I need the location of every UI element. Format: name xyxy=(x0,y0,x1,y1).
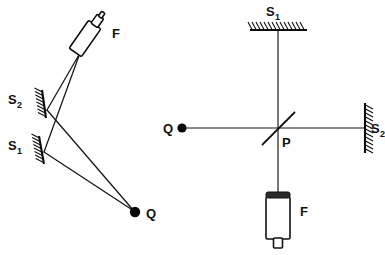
mirror-s1-face xyxy=(39,136,44,164)
right-beamsplitter-p-label: P xyxy=(282,135,291,150)
right-source-q-label: Q xyxy=(163,121,173,136)
left-mirror-s2-label: S xyxy=(8,92,17,107)
right-mirror-s2: S 2 xyxy=(365,103,385,153)
left-telescope-f xyxy=(69,8,109,57)
right-beam-paths xyxy=(184,30,365,192)
right-mirror-s1-label: S xyxy=(266,4,275,19)
left-mirror-s2-subscript: 2 xyxy=(17,100,22,110)
source-q-dot xyxy=(130,207,140,217)
left-mirror-s1: S 1 xyxy=(8,134,44,164)
left-source-q-label: Q xyxy=(146,206,156,221)
telescope-tip xyxy=(98,11,105,18)
right-mirror-s1-hatching xyxy=(248,22,304,30)
right-detector-f: F xyxy=(266,192,308,248)
detector-body xyxy=(266,197,290,239)
right-source-q: Q xyxy=(163,121,187,136)
interferometer-diagram-canvas: S 2 S 1 xyxy=(0,0,385,255)
right-mirror-s1: S 1 xyxy=(248,4,307,30)
left-mirror-s1-label: S xyxy=(8,138,17,153)
ray-s2-to-f xyxy=(47,53,80,110)
figure-root: S 2 S 1 xyxy=(0,0,385,255)
left-mirror-s1-subscript: 1 xyxy=(17,146,22,156)
right-detector-f-label: F xyxy=(300,204,308,219)
right-diagram-group: S 1 xyxy=(163,4,385,248)
right-mirror-s2-label: S xyxy=(371,121,380,136)
detector-stem xyxy=(274,238,283,248)
right-mirror-s2-subscript: 2 xyxy=(380,129,385,139)
left-ray-paths xyxy=(44,53,134,211)
left-diagram-group: S 2 S 1 xyxy=(8,8,156,221)
mirror-s2-face xyxy=(42,90,46,118)
left-telescope-f-label: F xyxy=(112,26,120,41)
right-mirror-s1-subscript: 1 xyxy=(275,12,280,22)
detector-cap xyxy=(266,192,290,198)
left-mirror-s2: S 2 xyxy=(8,88,46,118)
ray-s1-to-f xyxy=(44,53,80,152)
ray-q-to-s2 xyxy=(47,110,134,211)
left-source-q: Q xyxy=(130,206,156,221)
ray-q-to-s1 xyxy=(44,152,134,211)
right-source-q-dot xyxy=(177,123,186,132)
